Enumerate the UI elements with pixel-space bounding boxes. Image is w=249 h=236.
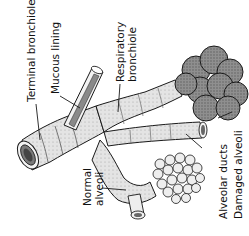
label-terminal-bronchiole: Terminal bronchiole bbox=[26, 0, 37, 102]
label-damaged-alveoli: Damaged alveoli bbox=[233, 130, 244, 219]
label-alveolar-ducts: Alveolar ducts bbox=[218, 144, 229, 219]
label-respiratory-bronchiole-line1: Respiratory bbox=[115, 22, 126, 82]
label-mucous-lining: Mucous lining bbox=[50, 22, 61, 94]
label-normal-alveoli-line2: alveoli bbox=[94, 172, 105, 206]
label-respiratory-bronchiole-line2: bronchiole bbox=[127, 27, 138, 82]
alveolar-duct-tube bbox=[104, 122, 207, 146]
bronchiole-alveoli-diagram: Terminal bronchiole Mucous lining Respir… bbox=[0, 0, 249, 236]
normal-alveoli-cluster bbox=[153, 153, 205, 204]
terminal-bronchiole-tube bbox=[13, 106, 104, 172]
damaged-alveoli-cluster bbox=[175, 46, 248, 121]
label-normal-alveoli-line1: Normal bbox=[82, 168, 93, 206]
